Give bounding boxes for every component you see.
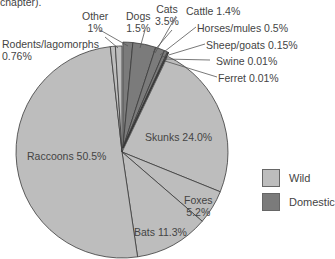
label-cats: Cats 3.5%	[155, 3, 179, 27]
label-dogs-name: Dogs	[126, 10, 151, 22]
label-raccoons: Raccoons 50.5%	[27, 150, 106, 162]
legend-item-wild: Wild	[262, 169, 310, 187]
label-bats: Bats 11.3%	[134, 226, 187, 238]
label-rodents-value: 0.76%	[2, 50, 99, 62]
label-dogs: Dogs 1.5%	[126, 10, 151, 34]
label-other-value: 1%	[82, 22, 108, 34]
label-dogs-value: 1.5%	[126, 22, 151, 34]
label-cats-name: Cats	[155, 3, 179, 15]
legend-label-wild: Wild	[289, 172, 310, 184]
legend-item-domestic: Domestic	[262, 193, 335, 211]
label-swine: Swine 0.01%	[216, 55, 277, 67]
legend-swatch-wild	[262, 169, 280, 187]
label-foxes-value: 5.2%	[184, 206, 213, 218]
legend-swatch-domestic	[262, 193, 280, 211]
caption-fragment: chapter).	[0, 0, 41, 8]
label-foxes: Foxes 5.2%	[184, 194, 213, 218]
label-cattle: Cattle 1.4%	[186, 5, 240, 17]
label-foxes-name: Foxes	[184, 194, 213, 206]
label-horses: Horses/mules 0.5%	[197, 22, 288, 34]
label-rodents-name: Rodents/lagomorphs	[2, 38, 99, 50]
label-rodents: Rodents/lagomorphs 0.76%	[2, 38, 99, 62]
label-other: Other 1%	[82, 10, 108, 34]
label-cats-value: 3.5%	[155, 15, 179, 27]
legend-label-domestic: Domestic	[289, 196, 335, 208]
label-other-name: Other	[82, 10, 108, 22]
label-ferret: Ferret 0.01%	[218, 72, 279, 84]
label-sheep: Sheep/goats 0.15%	[206, 39, 298, 51]
label-skunks: Skunks 24.0%	[145, 131, 212, 143]
